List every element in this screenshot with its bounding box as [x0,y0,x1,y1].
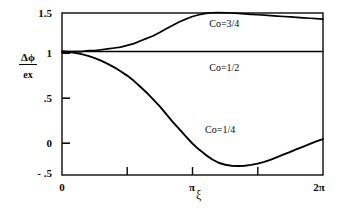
y-axis-label-denominator: ex [23,69,32,80]
x-tick-label-2pi: 2π [307,182,331,193]
y-tick-label-0-5: .5 [10,93,52,104]
y-axis-label: Δϕ ex [8,48,48,81]
chart-series-group [62,13,323,167]
series-path-co-1-4 [62,52,323,167]
series-annotation-co-1-2: Co=1/2 [209,63,239,73]
series-path-co-3-4 [62,13,323,52]
x-tick-label-0: 0 [52,182,72,193]
x-axis-ticks [127,167,258,175]
series-annotation-co-3-4: Co=3/4 [209,19,239,29]
y-axis-label-numerator: Δϕ [19,52,37,65]
y-axis-ticks [62,53,70,143]
chart-plot-area [0,0,338,211]
y-tick-label-neg-0-5: - .5 [6,168,52,179]
figure-container: 1.5 1 .5 0 - .5 Δϕ ex 0 π 2π ξ Co=3/4 Co… [0,0,338,211]
y-tick-label-1-5: 1.5 [10,8,52,19]
y-tick-label-0: 0 [10,138,52,149]
x-axis-label: ξ [196,188,201,203]
plot-frame [62,13,323,175]
series-annotation-co-1-4: Co=1/4 [205,125,235,135]
